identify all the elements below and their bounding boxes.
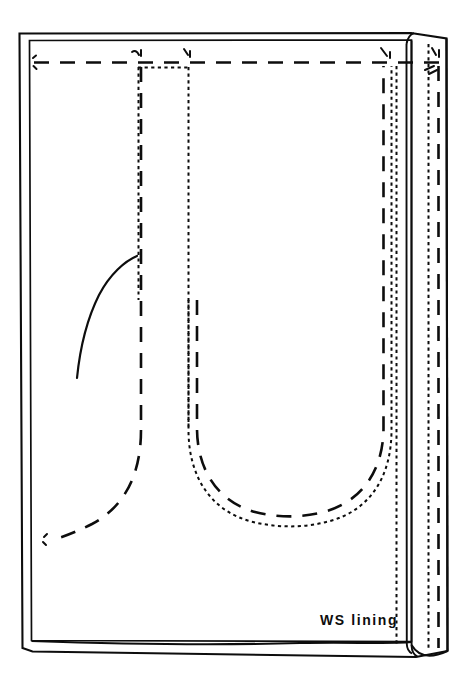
stitch-tick-left-lower bbox=[34, 66, 37, 69]
stitch-tick-facing-arrow-b bbox=[429, 70, 437, 74]
left-hip-curve-stitch bbox=[55, 430, 141, 539]
left-solid-shaping-curve bbox=[77, 256, 137, 378]
u-seam-group bbox=[189, 66, 392, 526]
facing-outer-edge bbox=[447, 39, 448, 652]
facing-fold-top-connector bbox=[407, 33, 415, 44]
pattern-diagram: WS lining bbox=[0, 0, 473, 685]
stitch-tick-left bbox=[33, 56, 36, 59]
left-curve-end-tick-b bbox=[43, 542, 46, 545]
stitch-tick-facing-right bbox=[432, 48, 436, 55]
facing-fold-crest-inner bbox=[412, 41, 418, 657]
right-facing-panel bbox=[397, 33, 448, 656]
pocket-placement-outline bbox=[138, 67, 189, 430]
pattern-illustration-svg bbox=[0, 0, 473, 685]
u-seam-dotted bbox=[189, 66, 392, 526]
ws-lining-label: WS lining bbox=[320, 612, 398, 628]
stitch-tick-pocket-left bbox=[132, 51, 139, 55]
left-guide-group bbox=[43, 67, 141, 545]
panel-inner-edge bbox=[30, 40, 412, 642]
stitch-tick-pocket-right bbox=[184, 49, 188, 55]
stitch-tick-facing-left bbox=[381, 48, 387, 56]
top-stitch-line-group bbox=[33, 48, 444, 74]
u-seam-stitch bbox=[197, 66, 384, 516]
left-curve-end-tick bbox=[44, 534, 47, 537]
